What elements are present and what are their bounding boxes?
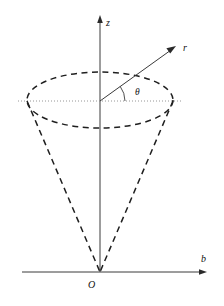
b-axis-group: b bbox=[22, 253, 207, 275]
b-axis-label: b bbox=[201, 253, 206, 264]
r-vector-label: r bbox=[183, 42, 187, 53]
r-vector-group: r bbox=[100, 42, 187, 101]
z-axis-label: z bbox=[105, 17, 110, 28]
cone-side-left bbox=[27, 101, 100, 272]
z-axis-arrowhead-icon bbox=[97, 15, 103, 23]
cone-diagram-figure: b z r θ O bbox=[0, 0, 224, 306]
theta-angle-group: θ bbox=[120, 86, 140, 101]
cone-diagram-canvas: b z r θ O bbox=[0, 0, 224, 306]
cone-side-right bbox=[100, 101, 173, 272]
b-axis-arrowhead-icon bbox=[199, 269, 207, 275]
origin-label: O bbox=[88, 279, 95, 290]
z-axis-group: z bbox=[97, 15, 110, 272]
theta-label: θ bbox=[135, 87, 140, 97]
theta-arc bbox=[120, 86, 125, 101]
